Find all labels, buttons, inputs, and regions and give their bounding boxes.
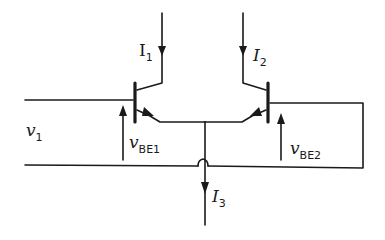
label-vbe1-sub: BE1 xyxy=(139,143,161,156)
q2-emitter-arrow-icon xyxy=(250,107,262,116)
label-i3-sub: 3 xyxy=(219,197,226,210)
label-i1-sub: 1 xyxy=(146,51,153,64)
q2-base-wire xyxy=(208,103,363,168)
label-v1-sub: 1 xyxy=(36,131,43,144)
label-i2-main: I xyxy=(253,45,260,65)
circuit-diagram xyxy=(0,0,385,240)
label-i3-main: I xyxy=(212,186,219,206)
label-vbe2: vBE2 xyxy=(290,140,321,157)
vbe1-arrow-icon xyxy=(119,105,127,116)
label-i1-main: I xyxy=(139,40,146,60)
i3-arrow-icon xyxy=(201,182,209,194)
label-i3: I3 xyxy=(212,188,226,205)
label-i2: I2 xyxy=(253,47,267,64)
label-i2-sub: 2 xyxy=(260,56,267,69)
bottom-wire-left xyxy=(25,165,198,166)
label-v1-main: v xyxy=(26,120,36,140)
label-vbe2-sub: BE2 xyxy=(300,149,322,162)
label-vbe1-main: v xyxy=(129,132,139,152)
label-i1: I1 xyxy=(139,42,153,59)
i2-arrow-icon xyxy=(239,46,247,56)
label-v1: v1 xyxy=(26,122,43,139)
q1-emitter-arrow-icon xyxy=(142,107,154,116)
label-vbe2-main: v xyxy=(290,138,300,158)
i1-arrow-icon xyxy=(158,46,166,56)
wire-crossover-hop xyxy=(198,159,208,166)
label-vbe1: vBE1 xyxy=(129,134,160,151)
vbe2-arrow-icon xyxy=(277,113,285,124)
